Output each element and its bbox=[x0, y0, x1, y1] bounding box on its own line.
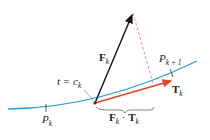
t-equals-label: t = ck bbox=[57, 76, 81, 90]
force-label: Fk bbox=[99, 52, 109, 66]
pk-label: Pk bbox=[42, 114, 52, 128]
pk1-label: Pk + 1 bbox=[159, 53, 182, 67]
dashed-projection bbox=[133, 13, 153, 83]
dot-product-label: Fk · Tk bbox=[109, 112, 139, 126]
tangent-label: Tk bbox=[172, 84, 183, 98]
base-point bbox=[93, 101, 96, 104]
tangent-vector bbox=[95, 81, 171, 103]
diagram-canvas bbox=[0, 0, 210, 140]
